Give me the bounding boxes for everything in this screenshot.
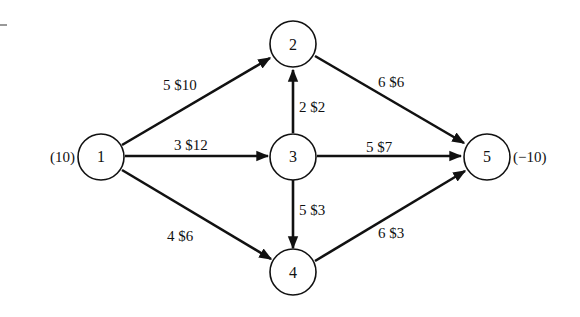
edge-label-2-5: 6 $6 [378,74,405,90]
network-diagram: 5 $10 3 $12 4 $6 2 $2 5 $7 5 $3 6 $6 6 $… [0,0,580,317]
node-3: 3 [270,134,316,180]
node-4: 4 [270,249,316,295]
node-5: 5 (−10) [464,134,546,180]
edge-label-3-2: 2 $2 [299,99,325,115]
node-5-supply: (−10) [513,149,546,166]
node-3-label: 3 [289,148,297,165]
node-2-label: 2 [289,36,297,53]
node-1-label: 1 [97,148,105,165]
edge-4-5 [315,171,465,261]
edge-label-4-5: 6 $3 [378,225,404,241]
edge-label-3-5: 5 $7 [366,139,393,155]
edge-2-5 [315,56,464,143]
node-2: 2 [270,21,316,67]
edge-label-1-2: 5 $10 [163,77,197,93]
node-4-label: 4 [289,264,297,281]
node-1-supply: (10) [50,149,75,166]
edge-1-2 [122,58,270,145]
node-5-label: 5 [483,148,491,165]
edge-1-4 [122,170,271,259]
node-1: 1 (10) [50,134,124,180]
edge-label-1-3: 3 $12 [174,137,208,153]
edge-label-1-4: 4 $6 [167,228,194,244]
edge-label-3-4: 5 $3 [299,202,325,218]
